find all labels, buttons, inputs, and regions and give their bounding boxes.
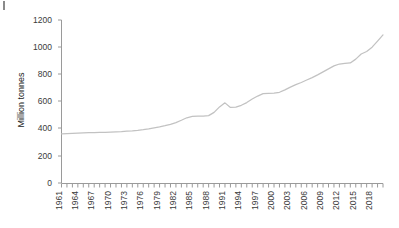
x-tick-label: 2006 <box>299 191 309 210</box>
x-tick-label: 1994 <box>233 191 243 210</box>
figure-edge-mark <box>3 1 5 10</box>
y-tick-label: 800 <box>38 69 52 79</box>
x-tick-label: 1961 <box>54 191 64 210</box>
x-tick-label: 2015 <box>348 191 358 210</box>
series-line-million-tonnes <box>62 35 384 134</box>
x-tick-label: 1982 <box>168 191 178 210</box>
x-tick-label: 1988 <box>201 191 211 210</box>
x-tick-label: 2018 <box>364 191 374 210</box>
x-tick-label: 2009 <box>315 191 325 210</box>
y-tick-labels: 1200 1000 800 600 400 200 0 <box>33 15 52 188</box>
y-tick-label: 1200 <box>33 15 52 25</box>
x-tick-label: 2003 <box>282 191 292 210</box>
y-tick-label: 600 <box>38 96 52 106</box>
x-tick-label: 1985 <box>184 191 194 210</box>
x-tick-label: 1967 <box>86 191 96 210</box>
x-tick-label: 2000 <box>266 191 276 210</box>
x-tick-marks <box>62 184 384 188</box>
x-tick-label: 1997 <box>250 191 260 210</box>
x-tick-label: 1976 <box>135 191 145 210</box>
y-tick-label: 200 <box>38 151 52 161</box>
x-tick-label: 1973 <box>119 191 129 210</box>
x-tick-label: 1979 <box>152 191 162 210</box>
y-axis-title: Million tonnes <box>16 72 26 128</box>
x-tick-label: 2012 <box>331 191 341 210</box>
y-tick-label: 0 <box>47 178 52 188</box>
y-tick-label: 1000 <box>33 42 52 52</box>
chart-figure: Million tonnes 1200 1000 800 600 400 200… <box>0 0 399 228</box>
x-tick-label: 1964 <box>70 191 80 210</box>
x-tick-labels: 1961196419671970197319761979198219851988… <box>54 191 375 210</box>
line-chart-svg: Million tonnes 1200 1000 800 600 400 200… <box>0 0 399 228</box>
y-tick-marks <box>58 20 62 183</box>
y-tick-label: 400 <box>38 123 52 133</box>
x-tick-label: 1970 <box>103 191 113 210</box>
x-tick-label: 1991 <box>217 191 227 210</box>
